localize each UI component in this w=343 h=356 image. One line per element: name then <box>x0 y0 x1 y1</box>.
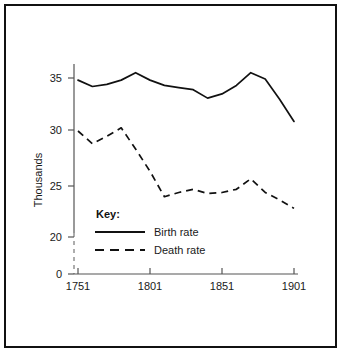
legend-label-birth-rate: Birth rate <box>154 226 199 238</box>
legend-swatch-dashed-line <box>94 245 146 255</box>
x-tick-label-1801: 1801 <box>138 280 162 292</box>
legend-item-death-rate: Death rate <box>94 241 244 259</box>
line-chart-svg <box>6 6 339 350</box>
x-axis-ticks <box>78 268 294 274</box>
chart-plot-area: 35 30 25 20 0 1751 1801 1851 1901 Thousa… <box>6 6 339 350</box>
legend-title: Key: <box>96 208 244 220</box>
legend-label-death-rate: Death rate <box>154 244 205 256</box>
y-tick-label-35: 35 <box>42 72 62 84</box>
y-tick-label-20: 20 <box>42 231 62 243</box>
y-tick-label-25: 25 <box>42 180 62 192</box>
figure-frame: 35 30 25 20 0 1751 1801 1851 1901 Thousa… <box>4 4 337 348</box>
y-tick-label-0: 0 <box>42 268 62 280</box>
chart-legend: Key: Birth rate Death rate <box>94 208 244 259</box>
x-tick-label-1901: 1901 <box>282 280 306 292</box>
series-line-birth-rate <box>78 73 294 122</box>
x-tick-label-1751: 1751 <box>66 280 90 292</box>
legend-swatch-solid-line <box>94 227 146 237</box>
y-axis-title: Thousands <box>32 145 44 215</box>
series-line-death-rate <box>78 128 294 209</box>
y-tick-label-30: 30 <box>42 124 62 136</box>
y-axis-ticks <box>68 78 74 274</box>
legend-item-birth-rate: Birth rate <box>94 223 244 241</box>
x-tick-label-1851: 1851 <box>210 280 234 292</box>
